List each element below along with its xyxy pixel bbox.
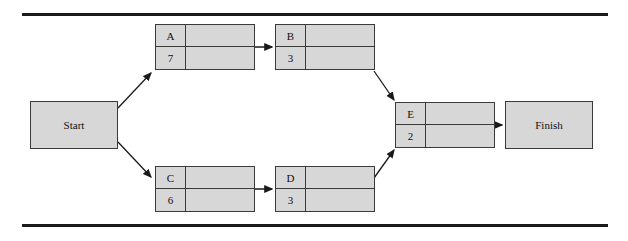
node-e-body-top xyxy=(426,103,494,125)
node-a-duration: 7 xyxy=(156,47,185,69)
node-a-body-bottom xyxy=(186,47,254,69)
node-finish[interactable]: Finish xyxy=(505,101,593,149)
node-c-duration: 6 xyxy=(156,189,185,211)
node-c-body-bottom xyxy=(186,189,254,211)
node-d-cells: D 3 xyxy=(276,167,306,211)
node-a-cells: A 7 xyxy=(156,25,186,69)
node-d-body xyxy=(306,167,374,211)
node-start-label: Start xyxy=(64,119,85,131)
node-e-cells: E 2 xyxy=(396,103,426,147)
node-c-label: C xyxy=(156,167,185,189)
node-e-duration: 2 xyxy=(396,125,425,147)
node-c-body xyxy=(186,167,254,211)
node-e-body-bottom xyxy=(426,125,494,147)
node-finish-label: Finish xyxy=(535,119,563,131)
node-b-cells: B 3 xyxy=(276,25,306,69)
node-e[interactable]: E 2 xyxy=(395,102,495,148)
diagram-page: Start A 7 B 3 C 6 D xyxy=(0,0,628,241)
node-c-cells: C 6 xyxy=(156,167,186,211)
node-e-label: E xyxy=(396,103,425,125)
node-b-body-bottom xyxy=(306,47,374,69)
node-b-label: B xyxy=(276,25,305,47)
connector-b-to-e xyxy=(374,71,394,100)
connector-start-to-a xyxy=(118,73,151,108)
node-d-body-top xyxy=(306,167,374,189)
node-a-body xyxy=(186,25,254,69)
node-d-duration: 3 xyxy=(276,189,305,211)
node-b-body-top xyxy=(306,25,374,47)
node-d[interactable]: D 3 xyxy=(275,166,375,212)
node-a-label: A xyxy=(156,25,185,47)
node-b-duration: 3 xyxy=(276,47,305,69)
connector-d-to-e xyxy=(374,150,394,178)
connector-start-to-c xyxy=(118,142,151,177)
node-d-label: D xyxy=(276,167,305,189)
node-b[interactable]: B 3 xyxy=(275,24,375,70)
node-a-body-top xyxy=(186,25,254,47)
node-c[interactable]: C 6 xyxy=(155,166,255,212)
node-start[interactable]: Start xyxy=(30,101,118,149)
node-b-body xyxy=(306,25,374,69)
node-c-body-top xyxy=(186,167,254,189)
node-a[interactable]: A 7 xyxy=(155,24,255,70)
node-e-body xyxy=(426,103,494,147)
node-d-body-bottom xyxy=(306,189,374,211)
